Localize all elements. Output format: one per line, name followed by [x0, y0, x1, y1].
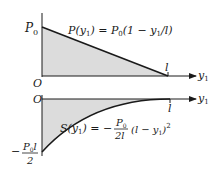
bottom-y1-axis-label: y1 — [197, 92, 209, 106]
svg-text:2: 2 — [26, 155, 33, 166]
svg-text:P0l: P0l — [22, 141, 37, 153]
svg-text:(l − y1)2: (l − y1)2 — [131, 122, 171, 136]
bottom-l-label: l — [168, 102, 172, 115]
min-value-label: − P0l 2 — [11, 141, 38, 166]
p0-label: P0 — [24, 21, 38, 37]
shear-moment-diagram: P0 O l y1 P(y1) = P0(1 − y1/l) O l y1 − … — [0, 0, 213, 176]
svg-text:S(y1) = −: S(y1) = − — [60, 122, 112, 136]
svg-text:−: − — [11, 145, 20, 158]
load-equation: P(y1) = P0(1 − y1/l) — [67, 24, 172, 38]
top-l-label: l — [165, 61, 169, 74]
top-y1-axis-label: y1 — [197, 69, 209, 83]
svg-text:P0: P0 — [115, 117, 127, 129]
svg-text:2l: 2l — [114, 130, 125, 141]
bottom-plot: O l y1 − P0l 2 S(y1) = − P0 2l (l − y1)2 — [11, 92, 209, 166]
top-origin-label: O — [33, 77, 42, 90]
top-plot: P0 O l y1 P(y1) = P0(1 − y1/l) — [24, 13, 209, 90]
bottom-origin-label: O — [33, 93, 42, 106]
